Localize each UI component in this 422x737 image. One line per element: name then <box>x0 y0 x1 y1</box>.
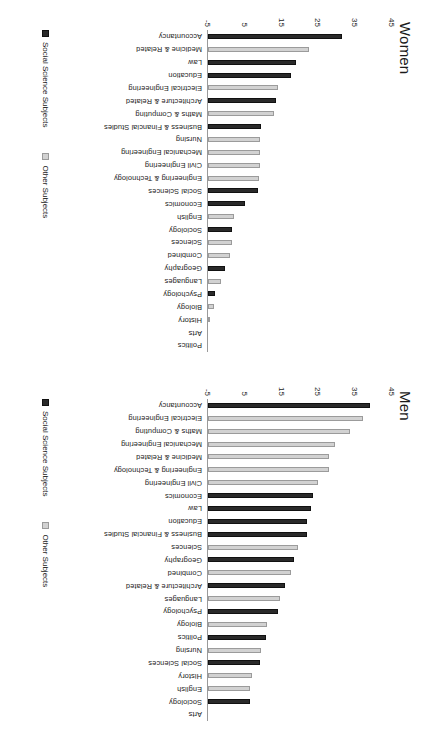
category-label-slot: Sciences <box>56 541 206 554</box>
chart-bar[interactable] <box>208 622 267 627</box>
bar-slot <box>208 566 392 579</box>
chart-bar[interactable] <box>208 47 309 52</box>
chart-bar[interactable] <box>208 214 234 219</box>
chart-bar[interactable] <box>208 240 232 245</box>
category-label: Combined <box>168 251 203 260</box>
panel-title-women: Women <box>397 22 414 74</box>
category-label: English <box>177 684 202 693</box>
category-label: Medicine & Related <box>136 452 202 461</box>
chart-bar[interactable] <box>208 291 215 296</box>
chart-bar[interactable] <box>208 111 274 116</box>
chart-bar[interactable] <box>208 635 266 640</box>
bar-slot <box>208 82 392 95</box>
chart-bar[interactable] <box>208 442 335 447</box>
category-label: Accountancy <box>159 32 202 41</box>
chart-bar[interactable] <box>208 545 298 550</box>
bar-slot <box>208 657 392 670</box>
bar-slot <box>208 451 392 464</box>
legend-item-other-men[interactable]: Other Subjects <box>41 522 50 587</box>
category-label-slot: Sociology <box>56 223 206 236</box>
chart-bar[interactable] <box>208 557 294 562</box>
chart-bar[interactable] <box>208 454 329 459</box>
value-axis-women: -5515253545 <box>207 0 392 30</box>
bar-slot <box>208 210 392 223</box>
chart-bar[interactable] <box>208 686 250 691</box>
chart-bar[interactable] <box>208 429 350 434</box>
chart-figure: Women -5515253545 AccountancyMedicine & … <box>0 0 422 737</box>
bar-series-women <box>208 30 392 352</box>
axis-tick-label: 15 <box>276 18 285 27</box>
legend-swatch-other-icon <box>42 153 49 160</box>
chart-bar[interactable] <box>208 570 291 575</box>
chart-bar[interactable] <box>208 493 313 498</box>
chart-bar[interactable] <box>208 648 261 653</box>
chart-bar[interactable] <box>208 163 260 168</box>
chart-bar[interactable] <box>208 403 370 408</box>
category-label: Sociology <box>169 697 202 706</box>
chart-bar[interactable] <box>208 137 260 142</box>
category-label: Sciences <box>171 238 202 247</box>
category-label: Economics <box>165 199 202 208</box>
axis-tick-label: 45 <box>387 18 396 27</box>
category-label: Engineering & Technology <box>114 174 202 183</box>
category-label-slot: Sciences <box>56 236 206 249</box>
legend-item-social-women[interactable]: Social Science Subjects <box>41 30 50 127</box>
category-labels-women: AccountancyMedicine & RelatedLawEducatio… <box>56 30 206 352</box>
chart-bar[interactable] <box>208 480 318 485</box>
chart-bar[interactable] <box>208 34 342 39</box>
category-label-slot: Accountancy <box>56 30 206 43</box>
chart-bar[interactable] <box>208 201 245 206</box>
category-label: Law <box>188 504 202 513</box>
chart-bar[interactable] <box>208 60 296 65</box>
bar-slot <box>208 249 392 262</box>
chart-bar[interactable] <box>208 176 259 181</box>
chart-bar[interactable] <box>208 467 329 472</box>
chart-bar[interactable] <box>208 506 311 511</box>
category-label: Social Sciences <box>148 186 202 195</box>
category-label-slot: Civil Engineering <box>56 159 206 172</box>
chart-bar[interactable] <box>208 317 210 322</box>
chart-bar[interactable] <box>208 98 276 103</box>
category-label-slot: Biology <box>56 618 206 631</box>
chart-bar[interactable] <box>208 124 261 129</box>
chart-bar[interactable] <box>208 673 252 678</box>
category-label-slot: Civil Engineering <box>56 476 206 489</box>
chart-bar[interactable] <box>208 150 260 155</box>
chart-bar[interactable] <box>208 253 230 258</box>
category-label-slot: Architecture & Related <box>56 579 206 592</box>
legend-item-other-women[interactable]: Other Subjects <box>41 153 50 218</box>
chart-bar[interactable] <box>208 699 250 704</box>
chart-bar[interactable] <box>208 519 307 524</box>
category-label-slot: English <box>56 210 206 223</box>
bar-slot <box>208 644 392 657</box>
category-label-slot: Economics <box>56 197 206 210</box>
legend-item-social-men[interactable]: Social Science Subjects <box>41 399 50 496</box>
category-label: Geography <box>165 555 202 564</box>
bar-slot <box>208 30 392 43</box>
category-label: Electrical Engineering <box>128 414 202 423</box>
category-label-slot: English <box>56 682 206 695</box>
chart-bar[interactable] <box>208 532 307 537</box>
category-label-slot: Languages <box>56 275 206 288</box>
chart-bar[interactable] <box>208 583 285 588</box>
axis-tick-label: -5 <box>203 20 212 27</box>
chart-bar[interactable] <box>208 85 278 90</box>
bar-slot <box>208 185 392 198</box>
chart-bar[interactable] <box>208 73 291 78</box>
category-label: Education <box>168 71 202 80</box>
chart-bar[interactable] <box>208 609 278 614</box>
legend-women: Social Science Subjects Other Subjects <box>41 30 50 218</box>
category-label: Law <box>188 58 202 67</box>
chart-bar[interactable] <box>208 227 232 232</box>
chart-bar[interactable] <box>208 266 225 271</box>
bar-slot <box>208 300 392 313</box>
chart-bar[interactable] <box>208 304 214 309</box>
chart-bar[interactable] <box>208 596 280 601</box>
chart-bar[interactable] <box>208 660 260 665</box>
chart-bar[interactable] <box>208 188 258 193</box>
chart-bar[interactable] <box>208 279 221 284</box>
chart-bar[interactable] <box>208 416 363 421</box>
category-label: Biology <box>177 302 202 311</box>
bar-slot <box>208 146 392 159</box>
bar-slot <box>208 56 392 69</box>
